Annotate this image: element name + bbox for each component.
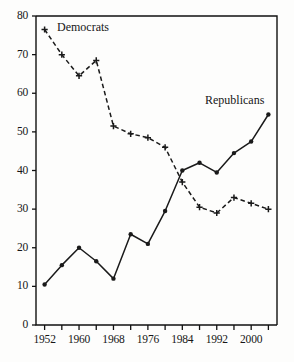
y-tick-label: 70 — [2, 48, 28, 60]
y-tick-label: 50 — [2, 125, 28, 137]
y-tick-label: 40 — [2, 164, 28, 176]
y-tick-label: 80 — [2, 9, 28, 21]
y-tick-label: 10 — [2, 279, 28, 291]
line-chart-plot — [0, 0, 294, 362]
axis-ticks — [32, 16, 268, 330]
data-series-group — [42, 26, 272, 286]
series-label-republicans: Republicans — [205, 93, 264, 108]
y-tick-label: 60 — [2, 86, 28, 98]
series-label-democrats: Democrats — [57, 20, 109, 35]
y-tick-label: 0 — [2, 318, 28, 330]
y-tick-label: 30 — [2, 202, 28, 214]
x-tick-label: 2000 — [231, 333, 271, 345]
chart-axes — [36, 16, 277, 325]
chart-container: 80 70 60 50 40 30 20 10 0 1952 1960 1968… — [0, 0, 294, 362]
y-tick-label: 20 — [2, 241, 28, 253]
